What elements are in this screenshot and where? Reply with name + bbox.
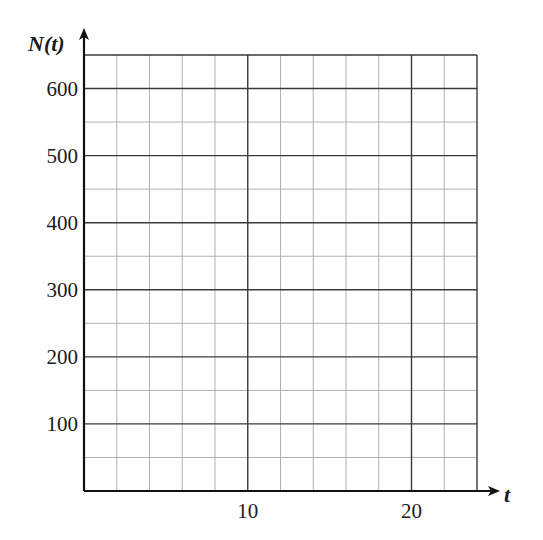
y-tick-label: 100 xyxy=(47,412,79,436)
y-tick-labels: 100200300400500600 xyxy=(47,77,79,436)
chart: 100200300400500600 1020 N(t) t xyxy=(0,0,543,540)
y-tick-label: 600 xyxy=(47,77,79,101)
x-axis-title: t xyxy=(504,482,511,507)
x-tick-label: 20 xyxy=(401,499,422,523)
minor-grid xyxy=(84,55,477,491)
y-axis-title: N(t) xyxy=(27,31,65,56)
y-tick-label: 400 xyxy=(47,211,79,235)
y-tick-label: 200 xyxy=(47,345,79,369)
y-tick-label: 500 xyxy=(47,144,79,168)
x-tick-label: 10 xyxy=(237,499,258,523)
axes xyxy=(79,28,500,496)
y-tick-label: 300 xyxy=(47,278,79,302)
x-tick-labels: 1020 xyxy=(237,499,422,523)
